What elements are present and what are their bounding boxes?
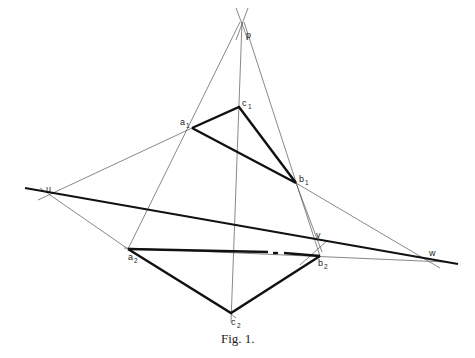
- label-b2: b: [318, 258, 323, 268]
- line-p-c2: [231, 22, 242, 322]
- line-u-a2: [40, 188, 128, 249]
- line-p-b2: [244, 22, 320, 256]
- point-labels: p c 1 a 1 b 1 u v w a 2 b 2 c 2: [46, 30, 436, 329]
- projective-diagram: p c 1 a 1 b 1 u v w a 2 b 2 c 2 Fig. 1.: [0, 0, 475, 358]
- label-b1-sub: 1: [305, 179, 309, 186]
- edge-a2-b2-left: [128, 249, 268, 252]
- triangle-2: [128, 249, 320, 313]
- label-c2-sub: 2: [237, 322, 241, 329]
- label-v: v: [316, 230, 321, 240]
- label-b1: b: [299, 174, 304, 184]
- label-a2: a: [128, 252, 133, 262]
- label-a1-sub: 1: [186, 122, 190, 129]
- triangles: [128, 107, 320, 313]
- figure-canvas: p c 1 a 1 b 1 u v w a 2 b 2 c 2 Fig. 1.: [0, 0, 475, 358]
- figure-caption: Fig. 1.: [221, 331, 255, 346]
- line-u-a1: [38, 128, 192, 200]
- label-p: p: [246, 30, 251, 40]
- label-c1-sub: 1: [248, 103, 252, 110]
- label-w: w: [428, 248, 436, 258]
- label-a1: a: [180, 117, 185, 127]
- label-c1: c: [242, 98, 247, 108]
- line-b1-v: [296, 183, 322, 252]
- label-b2-sub: 2: [324, 263, 328, 270]
- triangle-1: [192, 107, 296, 183]
- label-a2-sub: 2: [134, 257, 138, 264]
- label-c2: c: [231, 317, 236, 327]
- construction-lines: [38, 8, 445, 322]
- label-u: u: [46, 184, 51, 194]
